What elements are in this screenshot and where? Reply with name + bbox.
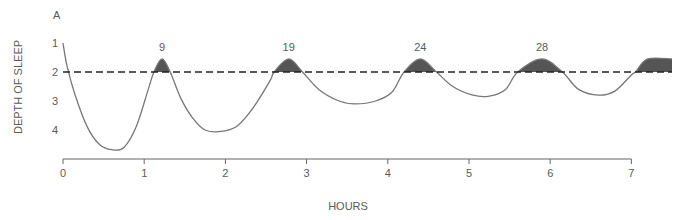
rem-episode xyxy=(63,43,672,150)
x-tick-label: 0 xyxy=(60,167,66,179)
rem-episode xyxy=(63,43,672,150)
x-tick-label: 6 xyxy=(547,167,553,179)
y-tick-label: 2 xyxy=(52,66,58,78)
rem-episode-fills xyxy=(63,43,672,150)
x-tick-label: 4 xyxy=(385,167,391,179)
sleep-cycle-chart: A DEPTH OF SLEEP HOURS 1234 01234567 919… xyxy=(0,0,686,220)
rem-episode-labels: 9192428 xyxy=(159,41,548,53)
sleep-depth-curve xyxy=(63,43,672,150)
y-axis-title: DEPTH OF SLEEP xyxy=(12,40,24,134)
x-tick-label: 3 xyxy=(304,167,310,179)
x-axis: 01234567 xyxy=(60,159,635,179)
rem-episode xyxy=(63,43,672,150)
x-tick-label: 2 xyxy=(222,167,228,179)
panel-label: A xyxy=(53,9,61,21)
y-tick-label: 3 xyxy=(52,95,58,107)
y-axis-ticks: 1234 xyxy=(52,37,58,136)
y-tick-label: 4 xyxy=(52,124,58,136)
x-axis-title: HOURS xyxy=(328,200,368,212)
rem-episode xyxy=(63,43,672,150)
rem-episode-label: 19 xyxy=(283,41,295,53)
x-tick-label: 1 xyxy=(141,167,147,179)
x-tick-label: 5 xyxy=(466,167,472,179)
rem-episode-label: 9 xyxy=(159,41,165,53)
y-tick-label: 1 xyxy=(52,37,58,49)
x-tick-label: 7 xyxy=(628,167,634,179)
rem-episode-label: 28 xyxy=(536,41,548,53)
rem-episode-label: 24 xyxy=(414,41,426,53)
rem-episode xyxy=(63,43,672,150)
